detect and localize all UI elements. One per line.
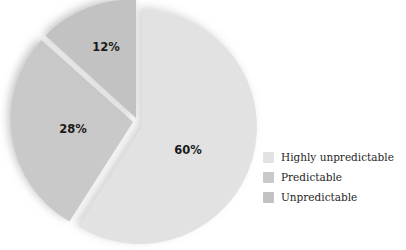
legend-swatch-icon-unpredictable (263, 192, 274, 203)
slice-value-label-unpredictable: 12% (92, 40, 120, 54)
legend-item-predictable[interactable]: Predictable (263, 167, 403, 187)
chart-legend: Highly unpredictable Predictable Unpredi… (263, 147, 403, 207)
pie-chart-canvas: 60% 28% 12% (0, 0, 406, 250)
legend-item-highly-unpredictable[interactable]: Highly unpredictable (263, 147, 403, 167)
pie-chart-figure: 60% 28% 12% Highly unpredictable Predict… (0, 0, 406, 250)
legend-label-unpredictable: Unpredictable (281, 192, 357, 203)
legend-swatch-icon-highly-unpredictable (263, 152, 274, 163)
legend-label-highly-unpredictable: Highly unpredictable (281, 152, 394, 163)
legend-item-unpredictable[interactable]: Unpredictable (263, 187, 403, 207)
slice-value-label-predictable: 28% (59, 122, 87, 136)
slice-value-label-highly-unpredictable: 60% (174, 143, 202, 157)
legend-swatch-icon-predictable (263, 172, 274, 183)
legend-label-predictable: Predictable (281, 172, 342, 183)
